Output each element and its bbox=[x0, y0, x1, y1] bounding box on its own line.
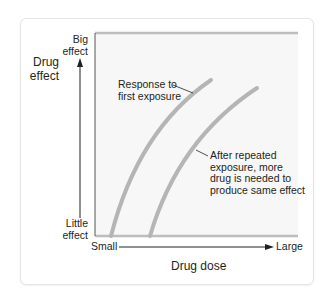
annotation-repeated-exposure: After repeated exposure, more drug is ne… bbox=[210, 150, 305, 196]
x-axis-arrowhead-icon bbox=[265, 244, 274, 250]
y-axis-title-line1: Drug bbox=[20, 56, 59, 70]
y-top-label: Big effect bbox=[40, 34, 88, 57]
annotation-first-line1: Response to bbox=[118, 79, 181, 91]
x-right-label: Large bbox=[276, 241, 303, 253]
y-bottom-label-line2: effect bbox=[40, 230, 88, 242]
y-bottom-label: Little effect bbox=[40, 218, 88, 241]
y-axis-arrowhead-icon bbox=[77, 58, 83, 67]
y-bottom-label-line1: Little bbox=[40, 218, 88, 230]
y-top-label-line1: Big bbox=[40, 34, 88, 46]
plot-area bbox=[95, 33, 298, 236]
x-left-label: Small bbox=[91, 241, 117, 253]
annotation-first-exposure: Response to first exposure bbox=[118, 79, 181, 102]
annotation-repeated-line1: After repeated bbox=[210, 150, 305, 162]
y-axis-title-line2: effect bbox=[20, 70, 59, 84]
annotation-repeated-line3: drug is needed to bbox=[210, 173, 305, 185]
annotation-first-line2: first exposure bbox=[118, 91, 181, 103]
y-axis-title: Drug effect bbox=[20, 56, 59, 83]
annotation-repeated-line4: produce same effect bbox=[210, 185, 305, 197]
x-axis-title: Drug dose bbox=[171, 259, 226, 273]
